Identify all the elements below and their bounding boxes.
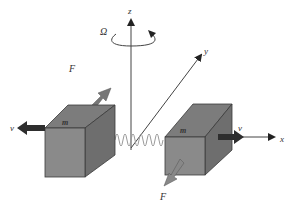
spring [115, 134, 163, 146]
force-left-label: F [68, 63, 76, 74]
velocity-left-label: v [10, 123, 14, 133]
omega-label: Ω [100, 26, 107, 37]
velocity-right-label: v [238, 123, 242, 133]
mass-left-label: m [62, 118, 68, 127]
gyroscope-diagram: z Ω y x m F v [0, 0, 289, 209]
mass-left-box [45, 88, 115, 177]
force-right-label: F [159, 191, 167, 202]
z-axis-label: z [127, 6, 132, 16]
y-axis-label: y [203, 46, 208, 56]
mass-right-label: m [180, 126, 186, 135]
velocity-arrow-left-icon [17, 121, 45, 135]
mass-right-box [164, 104, 232, 186]
rotation-arrow-icon [112, 30, 156, 46]
x-axis-label: x [279, 134, 284, 144]
